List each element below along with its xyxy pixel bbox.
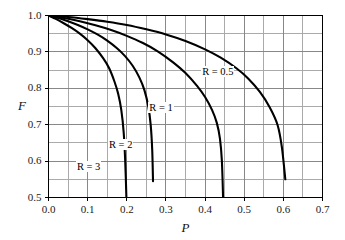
x-tick-label: 0.0 — [32, 203, 66, 215]
chart-figure: F P 0.50.60.70.80.91.0 0.00.10.20.30.40.… — [0, 0, 345, 240]
x-tick-label: 0.1 — [71, 203, 105, 215]
ticks-group — [45, 16, 323, 202]
x-tick-label: 0.3 — [149, 203, 183, 215]
y-tick-label: 0.8 — [14, 81, 42, 93]
y-tick-label: 1.0 — [14, 9, 42, 21]
y-tick-label: 0.7 — [14, 118, 42, 130]
x-tick-label: 0.4 — [188, 203, 222, 215]
curve-label-0: R = 0.5 — [201, 66, 234, 77]
y-tick-label: 0.9 — [14, 45, 42, 57]
x-axis-title: P — [182, 220, 190, 236]
curve-series-0 — [49, 16, 286, 180]
x-tick-label: 0.5 — [227, 203, 261, 215]
curve-label-3: R = 3 — [76, 161, 101, 172]
x-tick-label: 0.7 — [306, 203, 340, 215]
y-tick-label: 0.6 — [14, 154, 42, 166]
x-tick-label: 0.2 — [110, 203, 144, 215]
curve-label-1: R = 1 — [148, 102, 173, 113]
y-tick-label: 0.5 — [14, 191, 42, 203]
x-tick-label: 0.6 — [266, 203, 300, 215]
curve-label-2: R = 2 — [108, 139, 133, 150]
y-axis-title: F — [18, 98, 26, 114]
